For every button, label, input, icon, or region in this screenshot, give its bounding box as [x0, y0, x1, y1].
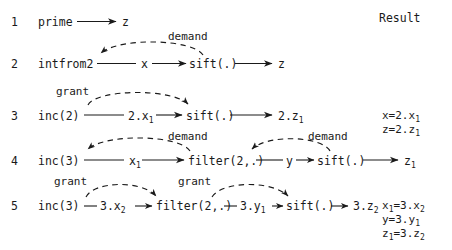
node-filter-row5: filter(2,.) [156, 200, 232, 212]
node-3x2-subscript: 2 [121, 206, 126, 215]
node-3y1: 3.y1 [240, 200, 266, 214]
result-row5-line3-lhs: z [382, 227, 389, 240]
result-row5-line1-sub2: 2 [420, 205, 425, 214]
node-sift-row4: sift(.) [317, 155, 365, 167]
result-row3-line1: x=2.x1 [382, 110, 420, 123]
node-2z1-subscript: 1 [299, 116, 304, 125]
result-row5-line2-lhs: y=3.y [382, 213, 415, 226]
arc-label-grant-row3: grant [56, 86, 89, 98]
arc-label-demand-row4-right: demand [308, 131, 348, 143]
row-number-1: 1 [11, 16, 18, 28]
node-3z2-subscript: 2 [374, 206, 379, 215]
node-3y1-base: 3.y [240, 199, 261, 213]
arc-grant-row5-right [212, 184, 288, 197]
row-number-3: 3 [11, 110, 18, 122]
result-row3-line1-sub: 1 [415, 115, 420, 124]
node-x1-subscript: 1 [136, 161, 141, 170]
node-3z2-base: 3.z [353, 199, 374, 213]
node-2x1-subscript: 1 [149, 116, 154, 125]
result-row5-line3-mid: =3.z [393, 227, 420, 240]
row-number-4: 4 [11, 155, 18, 167]
result-row3-line2: z=2.z1 [382, 124, 420, 137]
node-y-row4: y [286, 155, 293, 167]
node-3x2-base: 3.x [100, 199, 121, 213]
result-row5-line2: y=3.y1 [382, 214, 420, 227]
row-number-5: 5 [11, 200, 18, 212]
arc-label-grant-row5-right: grant [178, 176, 211, 188]
node-2x1: 2.x1 [128, 110, 154, 124]
node-z-row1: z [122, 16, 129, 28]
result-row3-line1-lhs: x=2.x [382, 109, 415, 122]
result-column-header: Result [379, 12, 421, 24]
node-x1-row4: x1 [129, 155, 141, 169]
node-filter-row4: filter(2,.) [188, 155, 264, 167]
node-sift-row5: sift(.) [286, 200, 334, 212]
arc-label-demand-row4-left: demand [168, 131, 208, 143]
arc-demand-row2 [101, 42, 203, 55]
node-z1-subscript: 1 [411, 161, 416, 170]
result-row5-line1-mid: =3.x [393, 199, 420, 212]
node-sift-row3: sift(.) [186, 110, 234, 122]
arc-label-grant-row5-left: grant [54, 176, 87, 188]
node-2x1-base: 2.x [128, 109, 149, 123]
node-2z1: 2.z1 [278, 110, 304, 124]
node-3x2: 3.x2 [100, 200, 126, 214]
node-inc3-row5: inc(3) [38, 200, 80, 212]
node-sift-row2: sift(.) [189, 58, 237, 70]
node-prime: prime [38, 16, 73, 28]
node-3y1-subscript: 1 [261, 206, 266, 215]
diagram-canvas: Result 1 prime z 2 intfrom2 x sift(.) z … [0, 0, 452, 250]
arc-label-demand-row2: demand [168, 31, 208, 43]
node-inc2: inc(2) [38, 110, 80, 122]
node-2z1-base: 2.z [278, 109, 299, 123]
result-row5-line1-lhs: x [382, 199, 389, 212]
node-z1-row4: z1 [404, 155, 416, 169]
row-3-connectors [84, 92, 272, 115]
result-row5-line3: z1=3.z2 [382, 228, 425, 241]
result-row3-line2-sub: 1 [415, 129, 420, 138]
node-x1-base: x [129, 154, 136, 168]
node-inc3-row4: inc(3) [38, 155, 80, 167]
result-row5-line1: x1=3.x2 [382, 200, 425, 213]
row-2-connectors [97, 42, 272, 64]
result-row5-line3-sub2: 2 [420, 233, 425, 242]
arc-grant-row5-left [86, 184, 156, 197]
result-row5-line3-sub1: 1 [389, 233, 394, 242]
node-z1-base: z [404, 154, 411, 168]
node-z-row2: z [278, 58, 285, 70]
result-row3-line2-lhs: z=2.z [382, 123, 415, 136]
arc-grant-row3 [88, 92, 188, 105]
node-x-row2: x [141, 58, 148, 70]
node-intfrom2: intfrom2 [38, 58, 93, 70]
row-number-2: 2 [11, 58, 18, 70]
node-3z2: 3.z2 [353, 200, 379, 214]
